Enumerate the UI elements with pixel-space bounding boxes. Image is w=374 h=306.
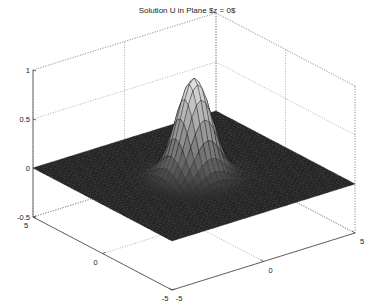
- z-tick-mark: [33, 119, 36, 120]
- z-tick-label: 1: [26, 66, 30, 75]
- z-gridline-back: [33, 13, 216, 70]
- y-tick-mark: [103, 253, 106, 254]
- x-tick-label: -5: [176, 294, 183, 303]
- surface-plot: Solution U in Plane $z = 0$ -0.500.51-50…: [0, 0, 374, 306]
- chart-title: Solution U in Plane $z = 0$: [139, 6, 236, 15]
- y-tick-label: -5: [162, 294, 169, 303]
- x-tick-label: 5: [360, 237, 364, 246]
- z-tick-label: 0: [26, 164, 30, 173]
- y-tick-mark: [33, 216, 36, 217]
- z-tick-mark: [33, 70, 36, 71]
- x-tick-label: 0: [268, 266, 272, 275]
- y-tick-mark: [172, 289, 175, 290]
- y-tick-label: 0: [93, 258, 97, 267]
- z-tick-label: 0.5: [20, 115, 30, 124]
- y-tick-label: 5: [24, 221, 28, 230]
- z-gridline-right: [216, 13, 355, 86]
- surface-layer: [33, 78, 355, 241]
